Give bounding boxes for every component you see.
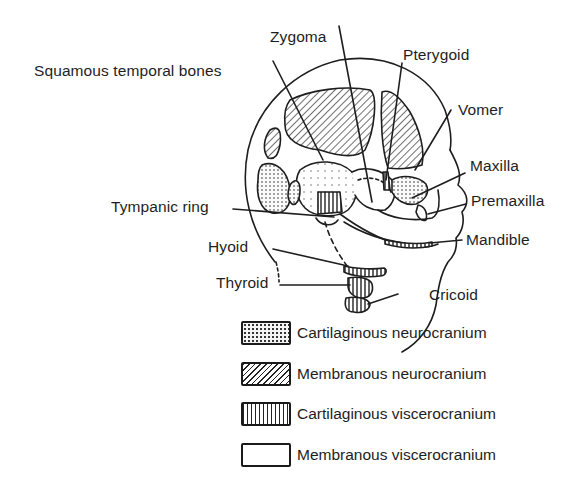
legend-item-cartilaginous-neurocranium: Cartilaginous neurocranium — [241, 320, 487, 346]
premaxilla-shape — [416, 205, 427, 221]
legend-label: Cartilaginous viscerocranium — [297, 405, 496, 423]
label-maxilla: Maxilla — [470, 158, 519, 174]
otic-stipple — [288, 181, 300, 205]
label-squamous-temporal: Squamous temporal bones — [34, 63, 222, 79]
leader-cricoid — [368, 294, 398, 304]
occipital-squama — [264, 128, 280, 158]
stipple-swatch-icon — [241, 321, 291, 345]
mandible-inner — [344, 222, 405, 243]
leader-premaxilla — [428, 204, 466, 214]
label-thyroid: Thyroid — [216, 275, 268, 291]
frontal-bone — [381, 91, 423, 169]
label-zygoma: Zygoma — [270, 29, 327, 45]
vertical-lines-swatch-icon — [241, 402, 291, 426]
hyoid-shape — [344, 266, 386, 277]
label-pterygoid: Pterygoid — [403, 47, 469, 63]
label-mandible: Mandible — [466, 232, 530, 248]
label-tympanic-ring: Tympanic ring — [111, 199, 209, 215]
legend-label: Membranous viscerocranium — [297, 446, 496, 464]
label-cricoid: Cricoid — [429, 287, 478, 303]
thyroid-shape — [348, 277, 373, 298]
legend-label: Membranous neurocranium — [297, 365, 487, 383]
label-vomer: Vomer — [458, 102, 503, 118]
legend-item-cartilaginous-viscerocranium: Cartilaginous viscerocranium — [241, 401, 496, 427]
legend-item-membranous-viscerocranium: Membranous viscerocranium — [241, 442, 496, 468]
meckel-cartilage — [385, 240, 432, 248]
neck-line — [276, 262, 279, 282]
label-premaxilla: Premaxilla — [471, 193, 544, 209]
occipital-cartilage — [258, 164, 291, 214]
nasal-capsule — [392, 177, 428, 205]
plain-swatch-icon — [241, 443, 291, 467]
hatch-swatch-icon — [241, 362, 291, 386]
tympanic-ring-shape — [316, 218, 338, 225]
legend-label: Cartilaginous neurocranium — [297, 324, 487, 342]
cricoid-shape — [345, 297, 370, 312]
ear-ossicles — [318, 192, 342, 214]
label-hyoid: Hyoid — [208, 239, 248, 255]
legend-item-membranous-neurocranium: Membranous neurocranium — [241, 361, 487, 387]
